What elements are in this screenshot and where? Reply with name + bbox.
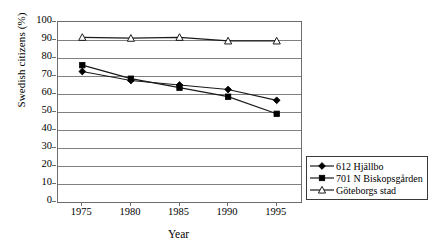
legend-item-2: Göteborgs stad — [309, 184, 423, 196]
series-2 — [79, 34, 281, 44]
y-tick-label: 50 — [26, 105, 52, 115]
line-chart: Swedish citizens (%) 1009080706050403020… — [0, 0, 439, 252]
y-tick-label: 0 — [26, 195, 52, 205]
y-tick-label: 70 — [26, 69, 52, 79]
data-point-filled-square — [319, 175, 324, 180]
plot-area — [57, 21, 302, 203]
y-tick-label: 80 — [26, 51, 52, 61]
data-point-filled-square — [177, 85, 182, 90]
y-tick-mark — [52, 183, 56, 184]
x-tick-mark — [81, 202, 82, 206]
y-axis-tick-labels: 1009080706050403020100 — [20, 0, 52, 252]
legend-label: 701 N Biskopsgården — [335, 173, 423, 184]
x-tick-mark — [130, 202, 131, 206]
chart-legend: 612 Hjällbo701 N BiskopsgårdenGöteborgs … — [306, 156, 428, 200]
x-tick-mark — [179, 202, 180, 206]
x-tick-label: 1980 — [110, 206, 150, 217]
y-tick-mark — [52, 201, 56, 202]
y-tick-mark — [52, 93, 56, 94]
x-tick-label: 1985 — [159, 206, 199, 217]
legend-item-1: 701 N Biskopsgården — [309, 172, 423, 184]
x-axis-title: Year — [57, 228, 300, 240]
data-point-filled-square — [128, 76, 133, 81]
data-point-filled-diamond — [79, 68, 86, 75]
data-point-filled-diamond — [273, 97, 280, 104]
data-point-filled-diamond — [225, 86, 232, 93]
legend-item-0: 612 Hjällbo — [309, 160, 423, 172]
data-point-filled-square — [80, 63, 85, 68]
x-tick-mark — [276, 202, 277, 206]
y-tick-label: 10 — [26, 177, 52, 187]
y-tick-mark — [52, 75, 56, 76]
y-tick-label: 20 — [26, 159, 52, 169]
x-tick-label: 1975 — [61, 206, 101, 217]
y-tick-label: 40 — [26, 123, 52, 133]
legend-marker-open-triangle-icon — [309, 184, 335, 196]
y-tick-mark — [52, 111, 56, 112]
data-point-filled-square — [274, 111, 279, 116]
plot-svg — [58, 22, 301, 202]
y-tick-mark — [52, 129, 56, 130]
x-tick-mark — [227, 202, 228, 206]
y-tick-label: 60 — [26, 87, 52, 97]
y-tick-mark — [52, 147, 56, 148]
y-tick-mark — [52, 57, 56, 58]
y-tick-label: 100 — [26, 15, 52, 25]
y-tick-mark — [52, 39, 56, 40]
legend-label: 612 Hjällbo — [335, 161, 384, 172]
series-1 — [80, 63, 280, 117]
legend-marker-filled-square-icon — [309, 172, 335, 184]
gridlines — [58, 40, 301, 184]
x-tick-label: 1990 — [207, 206, 247, 217]
x-tick-label: 1995 — [256, 206, 296, 217]
legend-marker-filled-diamond-icon — [309, 160, 335, 172]
y-tick-mark — [52, 165, 56, 166]
data-point-filled-diamond — [319, 163, 326, 170]
y-tick-mark — [52, 21, 56, 22]
legend-label: Göteborgs stad — [335, 185, 396, 196]
data-point-filled-square — [225, 94, 230, 99]
y-tick-label: 30 — [26, 141, 52, 151]
y-tick-label: 90 — [26, 33, 52, 43]
series-layer — [79, 34, 281, 117]
